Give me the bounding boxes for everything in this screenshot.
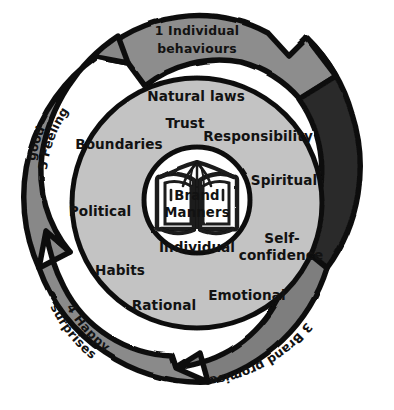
inner-label-political[interactable]: Political [69,203,132,219]
core-individual-label: Individual [159,239,235,255]
core-brand-line: Brand [174,188,219,203]
inner-label-emotional[interactable]: Emotional [208,287,286,303]
inner-label-self-confidence-line2[interactable]: confidence [239,247,324,263]
brand-manners-diagram: Brand Manners Individual Natural laws Tr… [0,0,394,410]
inner-label-natural-laws[interactable]: Natural laws [147,88,245,104]
inner-label-trust[interactable]: Trust [165,115,205,131]
inner-label-boundaries[interactable]: Boundaries [75,136,163,152]
inner-label-rational[interactable]: Rational [132,297,196,313]
inner-label-self-confidence-line1[interactable]: Self- [264,230,300,246]
ring-label-1-line1[interactable]: 1 Individual [155,23,240,38]
ring-label-2[interactable]: 2 Encounters [368,149,393,246]
diagram-canvas: Brand Manners Individual Natural laws Tr… [0,0,394,410]
inner-label-habits[interactable]: Habits [95,262,145,278]
core-manners-line: Manners [164,205,230,220]
ring-label-2-path: 2 Encounters [368,149,393,246]
ring-label-1-line2[interactable]: behaviours [157,41,237,56]
inner-label-spiritual[interactable]: Spiritual [251,172,317,188]
inner-label-responsibility[interactable]: Responsibility [203,128,313,144]
